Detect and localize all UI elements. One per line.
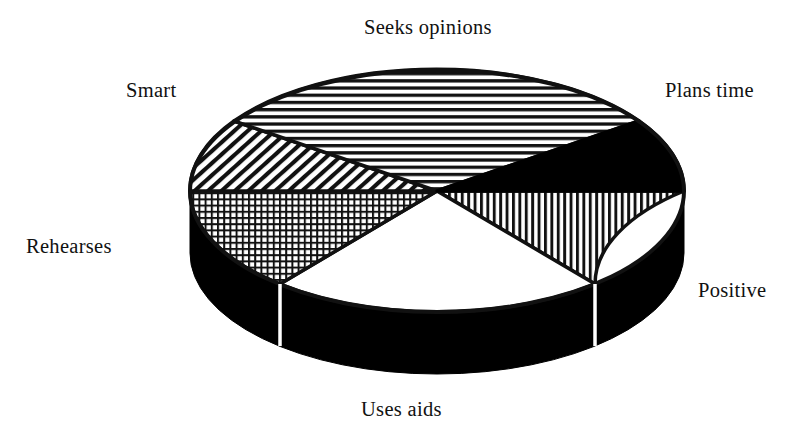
pie-label-positive: Positive <box>698 280 766 301</box>
pie-label-uses-aids: Uses aids <box>361 399 442 420</box>
pie-chart-graphic <box>0 0 803 437</box>
pie-label-rehearses: Rehearses <box>26 236 112 257</box>
pie-label-seeks-opinions: Seeks opinions <box>364 17 492 38</box>
pie-chart-figure: Seeks opinions Smart Plans time Rehearse… <box>0 0 803 437</box>
pie-label-smart: Smart <box>126 80 176 101</box>
pie-top-face <box>190 69 684 312</box>
pie-label-plans-time: Plans time <box>665 80 754 101</box>
